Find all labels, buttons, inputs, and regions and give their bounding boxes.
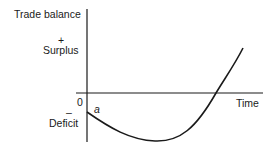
point-a-label: a bbox=[94, 103, 100, 115]
origin-label: 0 bbox=[77, 96, 83, 108]
x-axis-label: Time bbox=[236, 97, 259, 109]
surplus-label: Surplus bbox=[43, 44, 79, 56]
j-curve-diagram bbox=[0, 0, 274, 151]
trade-balance-curve bbox=[87, 48, 243, 141]
y-axis-label: Trade balance bbox=[14, 8, 81, 20]
deficit-label: Deficit bbox=[49, 117, 78, 129]
